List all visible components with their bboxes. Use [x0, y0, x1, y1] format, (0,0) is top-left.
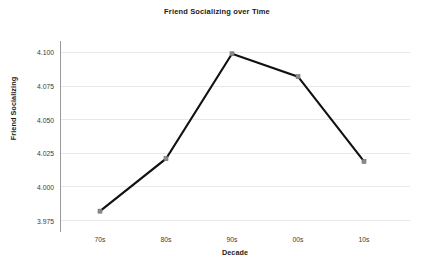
x-axis-tick-labels: 70s80s90s00s10s [60, 236, 410, 248]
x-axis-tick-label: 90s [202, 236, 262, 243]
y-axis-title: Friend Socializing [9, 59, 18, 159]
x-axis-tick-label: 70s [70, 236, 130, 243]
data-point-marker [296, 75, 300, 79]
x-axis-tick-label: 80s [136, 236, 196, 243]
y-axis-tick-label: 4.100 [8, 49, 54, 56]
chart-title: Friend Socializing over Time [0, 7, 434, 16]
x-axis-tick-label: 10s [334, 236, 394, 243]
chart-container: Friend Socializing over Time 3.9754.0004… [0, 0, 434, 270]
data-point-marker [230, 52, 234, 56]
data-point-marker [164, 157, 168, 161]
plot-area [60, 30, 410, 232]
x-axis-title: Decade [60, 248, 410, 257]
x-axis-tick-label: 00s [268, 236, 328, 243]
data-series-line [100, 54, 364, 211]
line-chart-svg [60, 30, 410, 232]
data-point-marker [98, 209, 102, 213]
y-axis-tick-label: 4.000 [8, 183, 54, 190]
data-point-marker [362, 159, 366, 163]
y-axis-tick-label: 3.975 [8, 217, 54, 224]
